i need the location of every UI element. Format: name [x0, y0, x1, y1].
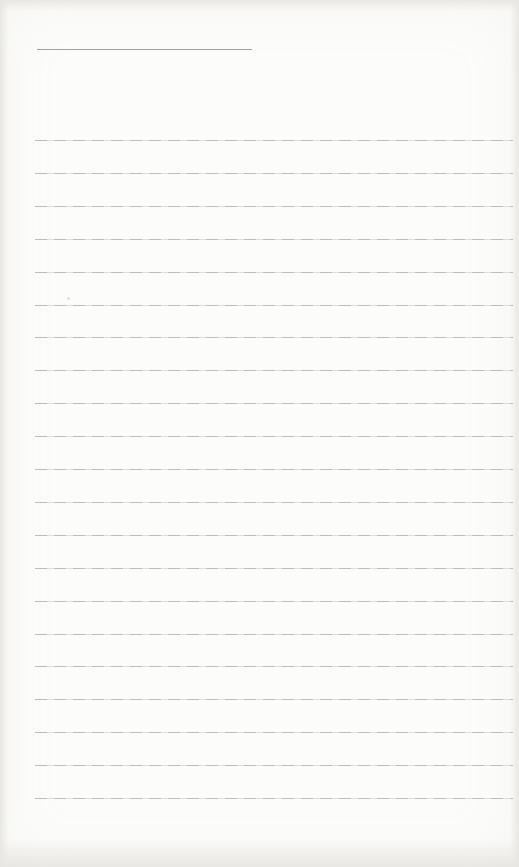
ruled-line: [35, 206, 513, 207]
ruled-line: [35, 535, 513, 536]
ruled-line: [35, 699, 513, 700]
ruled-line: [35, 370, 513, 371]
ruled-line: [35, 634, 513, 635]
ruled-line: [35, 239, 513, 240]
ruled-line: [35, 568, 513, 569]
ruled-line: [35, 798, 513, 799]
ruled-line: [35, 173, 513, 174]
ruled-line: [35, 305, 513, 306]
ruled-line: [35, 601, 513, 602]
ruled-line: [35, 765, 513, 766]
paper-speck: [67, 297, 70, 300]
ruled-line: [35, 469, 513, 470]
ruled-line: [35, 403, 513, 404]
ruled-line: [35, 272, 513, 273]
ruled-lines-area: [0, 0, 519, 867]
ruled-line: [35, 666, 513, 667]
ruled-line: [35, 502, 513, 503]
notebook-page: [0, 0, 519, 867]
ruled-line: [35, 140, 513, 141]
ruled-line: [35, 337, 513, 338]
ruled-line: [35, 436, 513, 437]
ruled-line: [35, 732, 513, 733]
